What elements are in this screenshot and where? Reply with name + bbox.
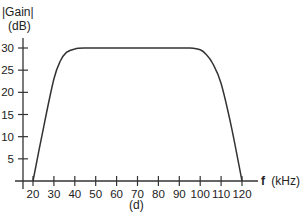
x-axis-label-unit: (kHz)	[271, 174, 300, 188]
figure-caption: (d)	[129, 198, 144, 212]
x-tick-label: 40	[68, 188, 81, 200]
y-tick-label: 5	[8, 153, 14, 165]
x-tick-label: 80	[152, 188, 165, 200]
axes	[15, 38, 258, 189]
y-tick-label: 25	[1, 64, 14, 76]
x-axis-label: f (kHz)	[261, 174, 300, 188]
x-tick-label: 110	[212, 188, 230, 200]
y-tick-label: 20	[1, 86, 14, 98]
x-tick-label: 100	[191, 188, 210, 200]
x-tick-label: 50	[89, 188, 102, 200]
x-tick-label: 60	[110, 188, 123, 200]
y-tick-label: 15	[1, 109, 14, 121]
x-tick-label: 20	[27, 188, 40, 200]
y-axis-label-line2: (dB)	[8, 19, 31, 33]
y-tick-label: 10	[1, 131, 14, 143]
bandpass-gain-chart: 51015202530 2030405060708090100110120 |G…	[0, 0, 301, 216]
x-tick-label: 120	[232, 188, 251, 200]
x-tick-label: 30	[48, 188, 61, 200]
x-axis-label-symbol: f	[261, 174, 266, 188]
y-tick-label: 30	[1, 42, 14, 54]
x-tick-label: 90	[173, 188, 186, 200]
gain-curve	[33, 48, 242, 181]
x-ticks: 2030405060708090100110120	[27, 176, 252, 200]
y-ticks: 51015202530	[1, 42, 28, 165]
y-axis-label-line1: |Gain|	[2, 5, 34, 19]
